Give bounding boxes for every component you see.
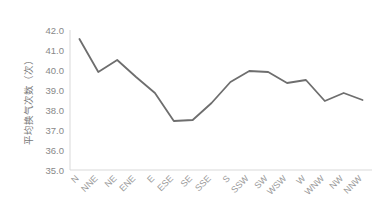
- y-axis-tick-label: 41.0: [46, 45, 65, 56]
- x-axis-tick-label: SSW: [229, 173, 251, 195]
- x-axis-tick-label: ENE: [117, 173, 137, 193]
- x-axis-tick-label: E: [145, 173, 156, 184]
- x-axis-tick-label: NNW: [342, 173, 365, 196]
- y-axis-tick-label: 38.0: [46, 105, 65, 116]
- x-axis-tick-label: WNW: [303, 173, 327, 197]
- y-axis-tick-label: 40.0: [46, 65, 65, 76]
- y-axis-tick-label: 37.0: [46, 125, 65, 136]
- chart-canvas: 42.041.040.039.038.037.036.035.0 NNNENEE…: [0, 0, 382, 210]
- x-axis-tick-label: NE: [103, 173, 119, 189]
- x-axis-tick-label: W: [294, 173, 307, 186]
- y-axis-tick-label: 35.0: [46, 165, 65, 176]
- x-axis-tick-label: SSE: [193, 173, 213, 193]
- data-series-line: [79, 39, 362, 121]
- y-axis-tick-label: 39.0: [46, 85, 65, 96]
- y-axis-tick-label: 36.0: [46, 145, 65, 156]
- x-axis-tick-label: S: [221, 173, 232, 184]
- x-axis-tick-label: N: [69, 173, 81, 185]
- x-axis-tick-label: WSW: [265, 173, 289, 197]
- x-axis-tick-label: NNE: [79, 173, 100, 194]
- x-axis-tick-label: SE: [179, 173, 195, 189]
- line-chart: 42.041.040.039.038.037.036.035.0 NNNENEE…: [0, 0, 382, 210]
- x-axis-tick-labels: NNNENEENEEESESESSESSSWSWWSWWWNWNWNNW: [69, 173, 364, 197]
- y-axis-tick-label: 42.0: [46, 25, 65, 36]
- x-axis-tick-label: ESE: [155, 173, 175, 193]
- y-axis-title: 平均换气次数（次）: [23, 55, 34, 145]
- y-axis-tick-labels: 42.041.040.039.038.037.036.035.0: [46, 25, 65, 176]
